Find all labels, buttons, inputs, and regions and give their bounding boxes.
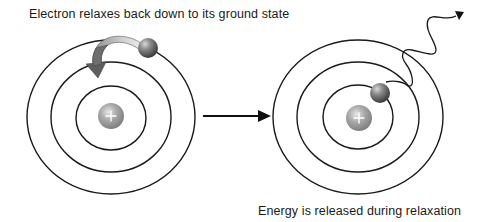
caption-energy-release: Energy is released during relaxation bbox=[258, 204, 461, 218]
atom-after bbox=[273, 11, 464, 194]
caption-relaxation-step: Electron relaxes back down to its ground… bbox=[29, 7, 289, 21]
electron bbox=[138, 38, 158, 58]
electron bbox=[370, 83, 390, 103]
process-arrow-icon bbox=[203, 110, 271, 122]
atom-before bbox=[27, 36, 195, 194]
electron-relaxation-diagram: Electron relaxes back down to its ground… bbox=[0, 0, 486, 222]
nucleus bbox=[346, 105, 372, 131]
nucleus bbox=[98, 103, 124, 129]
diagram-canvas bbox=[0, 0, 486, 222]
transition-arrow-icon bbox=[86, 36, 142, 78]
